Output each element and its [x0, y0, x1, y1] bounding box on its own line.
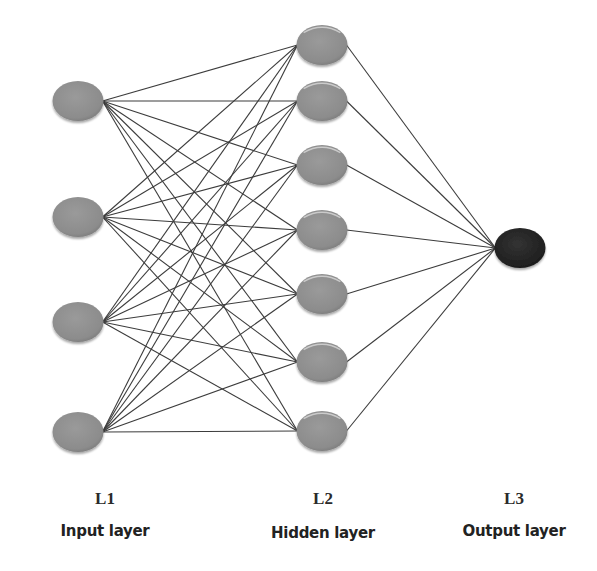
layer-l2-name: Hidden layer: [271, 524, 375, 542]
edge-l2-3-to-l3-1: [347, 165, 496, 248]
network-nodes: [53, 25, 546, 452]
layer-l3-id: L3: [504, 489, 524, 509]
edge-l1-1-to-l2-3: [103, 101, 298, 165]
edge-l2-4-to-l3-1: [347, 230, 496, 248]
hidden-node-2: [297, 81, 348, 121]
edge-l2-2-to-l3-1: [347, 101, 496, 248]
hidden-node-3: [297, 145, 348, 185]
input-node-3: [53, 302, 104, 342]
edge-l1-4-to-l2-6: [103, 362, 298, 432]
edge-l1-3-to-l2-1: [103, 45, 298, 322]
layer-l1-name: Input layer: [61, 522, 150, 540]
edge-l1-3-to-l2-7: [103, 322, 298, 431]
hidden-node-6: [297, 342, 348, 382]
hidden-node-4: [297, 210, 348, 250]
output-node-1: [495, 228, 546, 268]
edge-l1-1-to-l2-1: [103, 45, 298, 101]
input-node-4: [53, 412, 104, 452]
edge-l1-3-to-l2-6: [103, 322, 298, 362]
edge-l1-4-to-l2-7: [103, 431, 298, 432]
edge-l1-4-to-l2-4: [103, 230, 298, 432]
edge-l2-7-to-l3-1: [347, 248, 496, 431]
edge-l2-5-to-l3-1: [347, 248, 496, 294]
edge-l1-2-to-l2-7: [103, 217, 298, 431]
edge-l2-1-to-l3-1: [347, 45, 496, 248]
hidden-node-7: [297, 411, 348, 451]
layer-l3-name: Output layer: [463, 522, 566, 540]
hidden-node-1: [297, 25, 348, 65]
edge-l1-2-to-l2-2: [103, 101, 298, 217]
neural-network-diagram: [0, 0, 597, 571]
edge-l1-4-to-l2-5: [103, 294, 298, 432]
input-node-2: [53, 197, 104, 237]
layer-l1-id: L1: [95, 489, 115, 509]
edge-l1-1-to-l2-6: [103, 101, 298, 362]
layer-l2-id: L2: [313, 489, 333, 509]
edge-l2-6-to-l3-1: [347, 248, 496, 362]
edge-l1-1-to-l2-4: [103, 101, 298, 230]
input-node-1: [53, 81, 104, 121]
hidden-node-5: [297, 274, 348, 314]
